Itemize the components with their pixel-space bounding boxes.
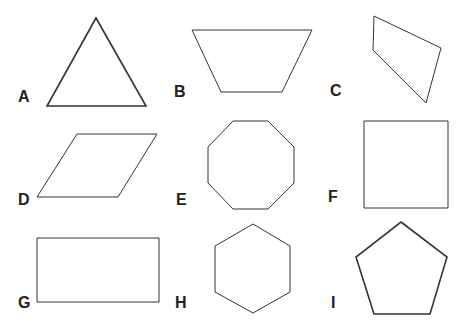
shape-label-c: C <box>330 83 342 99</box>
rectangle-shape-g <box>37 238 159 302</box>
shape-label-f: F <box>328 189 338 205</box>
quadrilateral-shape-c <box>373 16 441 103</box>
shape-label-a: A <box>18 89 30 105</box>
octagon-shape-e <box>208 121 294 209</box>
shape-label-h: H <box>175 295 187 311</box>
shape-label-b: B <box>174 84 186 100</box>
pentagon-shape-i <box>356 222 447 314</box>
triangle-shape-a <box>47 18 146 106</box>
shapes-canvas <box>0 0 467 336</box>
square-shape-f <box>364 121 448 208</box>
trapezoid-shape-b <box>192 30 312 92</box>
parallelogram-shape-d <box>37 134 157 197</box>
shape-label-d: D <box>18 192 30 208</box>
shape-label-i: I <box>331 295 335 311</box>
hexagon-shape-h <box>215 224 290 313</box>
shape-label-e: E <box>176 192 187 208</box>
shape-label-g: G <box>18 295 30 311</box>
